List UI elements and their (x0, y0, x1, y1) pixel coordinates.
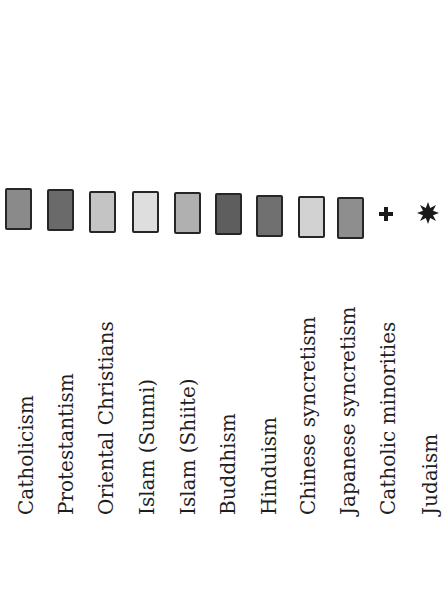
label-japanese-syncretism: Japanese syncretism (336, 306, 360, 515)
label-chinese-syncretism: Chinese syncretism (296, 317, 320, 515)
label-protestantism: Protestantism (54, 373, 78, 515)
swatch-hinduism (256, 195, 283, 237)
swatch-catholicism (5, 188, 32, 230)
label-catholicism: Catholicism (14, 395, 38, 515)
label-judaism: Judaism (418, 434, 442, 515)
swatch-japanese-syncretism (337, 197, 364, 239)
swatch-protestantism (47, 189, 74, 231)
star-icon (417, 202, 439, 224)
label-hinduism: Hinduism (257, 417, 281, 515)
label-islam-shiite: Islam (Shiite) (176, 378, 200, 515)
swatch-buddhism (215, 193, 242, 235)
label-islam-sunni: Islam (Sunni) (135, 379, 159, 515)
swatch-islam-shiite (174, 192, 201, 234)
cross-icon (378, 206, 394, 222)
label-oriental-christians: Oriental Christians (94, 321, 118, 515)
label-catholic-minorities: Catholic minorities (376, 322, 400, 515)
swatch-chinese-syncretism (298, 196, 325, 238)
label-buddhism: Buddhism (216, 413, 240, 515)
swatch-islam-sunni (132, 191, 159, 233)
swatch-oriental-christians (89, 191, 116, 233)
